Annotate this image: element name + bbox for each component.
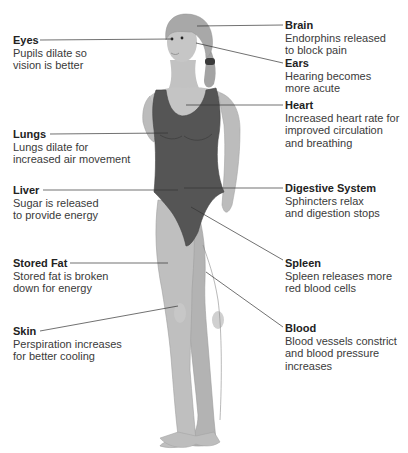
label-brain: Brain Endorphins released to block pain [285,19,386,57]
label-stored-fat: Stored Fat Stored fat is broken down for… [13,257,108,295]
label-title: Stored Fat [13,257,108,270]
label-ears: Ears Hearing becomes more acute [285,57,371,95]
label-title: Brain [285,19,386,32]
stress-response-diagram: Eyes Pupils dilate so vision is better L… [0,0,408,453]
label-description: Lungs dilate for increased air movement [13,141,130,166]
label-description: Blood vessels constrict and blood pressu… [285,335,397,373]
label-heart: Heart Increased heart rate for improved … [285,99,399,149]
label-description: Sphincters relax and digestion stops [285,195,380,220]
label-liver: Liver Sugar is released to provide energ… [13,184,99,222]
label-lungs: Lungs Lungs dilate for increased air mov… [13,128,130,166]
label-description: Sugar is released to provide energy [13,197,99,222]
label-digestive-system: Digestive System Sphincters relax and di… [285,182,380,220]
label-description: Endorphins released to block pain [285,32,386,57]
label-description: Pupils dilate so vision is better [13,47,87,72]
eye-right [181,37,184,40]
label-title: Heart [285,99,399,112]
label-description: Hearing becomes more acute [285,70,371,95]
label-eyes: Eyes Pupils dilate so vision is better [13,34,87,72]
label-description: Increased heart rate for improved circul… [285,112,399,150]
label-description: Stored fat is broken down for energy [13,270,108,295]
label-title: Digestive System [285,182,380,195]
neck [168,60,200,90]
label-description: Spleen releases more red blood cells [285,270,392,295]
hair-tie [205,58,215,65]
leader-line-brain [197,25,283,26]
label-skin: Skin Perspiration increases for better c… [13,325,122,363]
label-blood: Blood Blood vessels constrict and blood … [285,322,397,372]
label-description: Perspiration increases for better coolin… [13,338,122,363]
label-title: Blood [285,322,397,335]
label-title: Liver [13,184,99,197]
label-title: Eyes [13,34,87,47]
label-title: Ears [285,57,371,70]
label-title: Spleen [285,257,392,270]
label-spleen: Spleen Spleen releases more red blood ce… [285,257,392,295]
label-title: Lungs [13,128,130,141]
label-title: Skin [13,325,122,338]
right-arm [218,92,240,212]
